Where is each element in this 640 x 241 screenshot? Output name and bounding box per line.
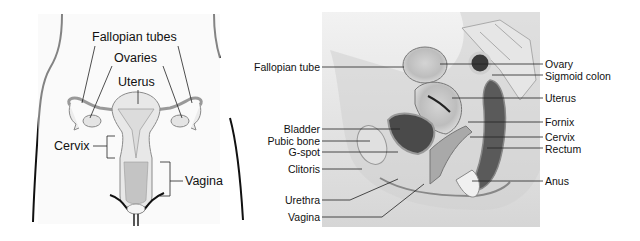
ovary-right — [171, 115, 189, 127]
label-anus: Anus — [545, 175, 569, 187]
label-fornix: Fornix — [545, 116, 575, 128]
label-uterus: Uterus — [118, 75, 155, 89]
label-cervix: Cervix — [54, 139, 90, 153]
label-ovaries: Ovaries — [114, 51, 157, 65]
anatomy-figure: Fallopian tubes Ovaries Uterus Cervix Va… — [0, 0, 640, 241]
label-fallopian-tube: Fallopian tube — [254, 61, 320, 73]
label-ovary: Ovary — [545, 58, 574, 70]
vagina-illustration — [124, 162, 148, 204]
label-cervix-sagittal: Cervix — [545, 131, 576, 143]
label-fallopian-tubes: Fallopian tubes — [92, 30, 177, 44]
body-outline-curve — [230, 118, 243, 220]
label-vagina: Vagina — [185, 174, 223, 188]
label-bladder: Bladder — [284, 123, 321, 135]
label-sigmoid-colon: Sigmoid colon — [545, 70, 611, 82]
ovary-illustration — [403, 47, 447, 83]
sigmoid-colon-illustration — [470, 53, 490, 73]
label-uterus-sagittal: Uterus — [545, 92, 576, 104]
label-vagina-sagittal: Vagina — [288, 211, 320, 223]
label-rectum: Rectum — [545, 143, 581, 155]
sagittal-view-diagram: Fallopian tube Bladder Pubic bone G-spot… — [230, 12, 611, 227]
label-urethra: Urethra — [285, 194, 320, 206]
label-clitoris: Clitoris — [288, 163, 320, 175]
label-g-spot: G-spot — [288, 146, 320, 158]
ovary-left — [83, 115, 101, 127]
frontal-view-diagram: Fallopian tubes Ovaries Uterus Cervix Va… — [33, 14, 223, 226]
